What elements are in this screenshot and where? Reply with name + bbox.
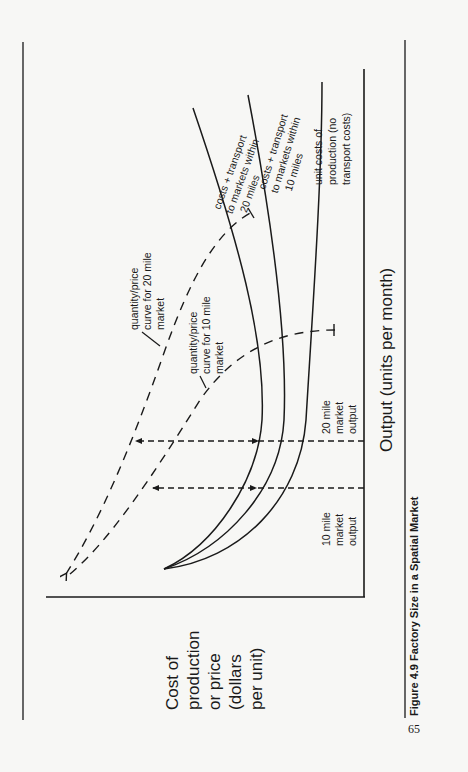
figure-caption: Figure 4.9 Factory Size in a Spatial Mar… bbox=[408, 496, 420, 716]
pointer-qp10 bbox=[200, 376, 206, 388]
curve-quantity-price-20 bbox=[66, 212, 252, 574]
pointer-qp20 bbox=[142, 332, 160, 346]
svg-text:output: output bbox=[346, 405, 358, 434]
page-number: 65 bbox=[408, 722, 420, 736]
svg-text:curve for 20 mile: curve for 20 mile bbox=[141, 252, 153, 330]
ylabel-group: Cost of production or price (dollars per… bbox=[163, 631, 266, 710]
label-out10: 10 mile market output bbox=[320, 512, 358, 546]
svg-text:transport costs): transport costs) bbox=[340, 113, 352, 185]
svg-text:20 mile: 20 mile bbox=[320, 400, 332, 434]
label-ct10: costs + transport to markets within 10 m… bbox=[255, 112, 314, 199]
label-qp10: quantity/price curve for 10 mile market bbox=[187, 296, 225, 374]
svg-text:Figure 4.9 Factory Size in a: Figure 4.9 Factory Size in a Spatial Mar… bbox=[408, 496, 420, 716]
svg-text:or price: or price bbox=[205, 653, 224, 710]
figure-canvas: Cost of production or price (dollars per… bbox=[0, 0, 468, 772]
svg-text:curve for 10 mile: curve for 10 mile bbox=[200, 296, 212, 374]
svg-text:(dollars: (dollars bbox=[226, 654, 245, 710]
svg-text:unit costs of: unit costs of bbox=[312, 129, 324, 185]
svg-text:10 mile: 10 mile bbox=[320, 512, 332, 546]
svg-text:Cost of: Cost of bbox=[163, 656, 182, 710]
svg-text:production: production bbox=[184, 631, 203, 710]
svg-text:quantity/price: quantity/price bbox=[128, 267, 140, 330]
svg-text:output: output bbox=[346, 517, 358, 546]
label-out20: 20 mile market output bbox=[320, 400, 358, 434]
label-unit-costs: unit costs of production (no transport c… bbox=[312, 113, 352, 185]
svg-text:market: market bbox=[333, 514, 345, 546]
svg-text:market: market bbox=[333, 402, 345, 434]
svg-text:quantity/price: quantity/price bbox=[187, 311, 199, 374]
xlabel-group: Output (units per month) bbox=[377, 268, 396, 452]
label-qp20: quantity/price curve for 20 mile market bbox=[128, 252, 166, 330]
svg-text:per unit): per unit) bbox=[247, 648, 266, 710]
svg-text:Output (units per month): Output (units per month) bbox=[377, 268, 396, 452]
svg-text:market: market bbox=[154, 298, 166, 330]
svg-text:market: market bbox=[213, 342, 225, 374]
svg-text:production (no: production (no bbox=[326, 118, 338, 185]
